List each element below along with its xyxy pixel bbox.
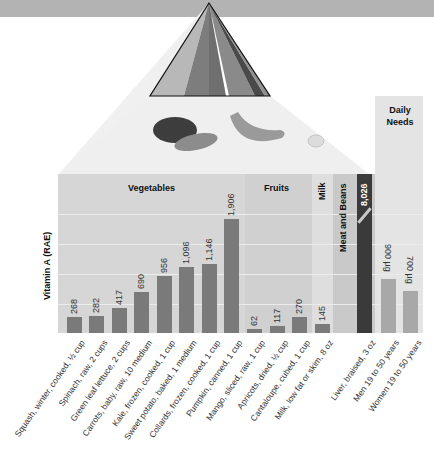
section-label-fruits: Fruits <box>264 183 289 193</box>
bar <box>134 292 149 333</box>
bar-value-label: 700 µg <box>405 256 415 284</box>
section-label-meat: Meat and Beans <box>338 183 348 252</box>
bar-value-label: 270 <box>294 299 304 314</box>
food-pyramid-icon <box>0 0 434 180</box>
bar <box>270 326 285 333</box>
section-label-daily-needs: Daily Needs <box>380 104 420 128</box>
bar-value-label: 1,146 <box>204 238 214 261</box>
bar <box>202 264 217 333</box>
bar-value-label: 145 <box>317 306 327 321</box>
section-label-vegetables: Vegetables <box>128 183 175 193</box>
bar <box>67 317 82 333</box>
bar-value-label: 900 µg <box>383 244 393 272</box>
bar-value-label: 1,906 <box>226 193 236 216</box>
bar-value-label: 117 <box>272 309 282 323</box>
bar-value-label: 1,096 <box>181 241 191 264</box>
bar-value-label: 62 <box>249 316 259 326</box>
bar-value-label: 8,026 <box>359 183 369 206</box>
y-axis-label: Vitamin A (RAE) <box>42 232 52 300</box>
bar <box>224 219 239 333</box>
bar <box>89 316 104 333</box>
bar <box>315 324 330 333</box>
bar <box>381 279 396 333</box>
bar <box>292 317 307 333</box>
bar <box>157 276 172 333</box>
section-label-milk: Milk <box>317 182 327 200</box>
bar-value-label: 956 <box>159 258 169 273</box>
bar-value-label: 282 <box>91 298 101 313</box>
bar <box>403 291 418 333</box>
bar <box>179 267 194 333</box>
bar-value-label: 417 <box>114 290 124 305</box>
bar <box>112 308 127 333</box>
bar-value-label: 268 <box>69 299 79 314</box>
bar-value-label: 690 <box>136 274 146 289</box>
bar <box>247 329 262 333</box>
